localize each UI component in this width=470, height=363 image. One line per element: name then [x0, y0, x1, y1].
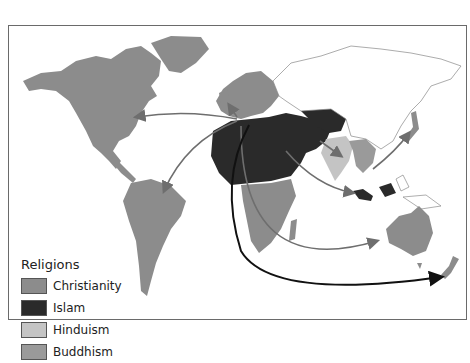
arrow-to-japan-from-india [373, 133, 409, 169]
swatch-buddhism [21, 344, 47, 360]
legend-label: Islam [53, 301, 85, 315]
south-america [123, 179, 186, 296]
legend: Religions Christianity Islam Hinduism Bu… [21, 257, 122, 363]
map-frame: Religions Christianity Islam Hinduism Bu… [8, 25, 467, 320]
legend-label: Buddhism [53, 345, 113, 359]
new-guinea [403, 195, 441, 209]
arrow-to-north-america [136, 113, 237, 119]
north-america [23, 46, 161, 169]
madagascar [289, 219, 297, 241]
new-zealand [441, 256, 459, 279]
legend-item-christianity: Christianity [21, 275, 122, 297]
swatch-christianity [21, 278, 47, 294]
tasmania [417, 263, 422, 269]
swatch-hinduism [21, 322, 47, 338]
legend-label: Hinduism [53, 323, 109, 337]
swatch-islam [21, 300, 47, 316]
india [321, 136, 353, 181]
legend-item-islam: Islam [21, 297, 122, 319]
southeast-asia [349, 139, 376, 173]
australia [386, 206, 433, 256]
legend-title: Religions [21, 257, 122, 272]
legend-item-hinduism: Hinduism [21, 319, 122, 341]
legend-item-buddhism: Buddhism [21, 341, 122, 363]
central-america [111, 156, 136, 183]
legend-label: Christianity [53, 279, 122, 293]
indonesia [353, 183, 396, 201]
philippines [396, 175, 409, 191]
